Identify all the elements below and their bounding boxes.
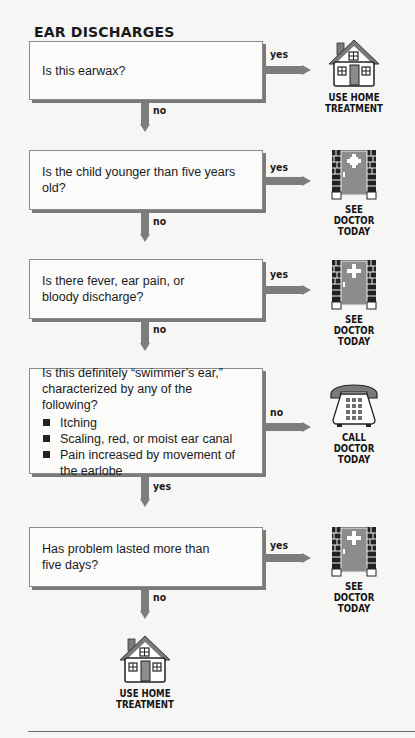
house-icon [117,634,173,684]
doctor-door-icon [330,148,378,200]
yes-arrow [141,477,149,499]
question-text: Has problem lasted more than five days? [42,541,250,573]
no-label: no [270,406,283,419]
outcome-line: TODAY [321,603,387,614]
no-label: no [153,591,166,604]
question-text: Is this definitely “swimmer’s ear,” char… [42,365,250,413]
question-box-earwax: Is this earwax? [29,41,263,100]
question-text: Is the child younger than five years old… [42,164,250,196]
question-box-fever: Is there fever, ear pain, or bloody disc… [29,259,263,319]
outcome-line: TODAY [321,226,387,237]
yes-label: yes [153,480,171,493]
no-arrow [264,423,302,431]
yes-arrow [264,286,302,294]
outcome-line: TREATMENT [321,103,387,114]
symptom-item: Pain increased by movement of the earlob… [42,447,250,479]
bottom-divider [28,731,415,732]
yes-arrow [264,177,302,185]
no-arrow [141,212,149,234]
symptom-item: Scaling, red, or moist ear canal [42,431,250,447]
question-box-swimmers-ear: Is this definitely “swimmer’s ear,” char… [29,368,263,474]
outcome-see-doctor-today: SEE DOCTOR TODAY [314,525,394,614]
chart-title: EAR DISCHARGES [34,24,175,40]
yes-label: yes [270,48,288,61]
no-arrow [141,321,149,343]
yes-label: yes [270,539,288,552]
yes-label: yes [270,268,288,281]
outcome-line: TODAY [321,336,387,347]
yes-label: yes [270,161,288,174]
question-text: Is there fever, ear pain, or bloody disc… [42,273,250,305]
no-arrow [141,589,149,611]
no-label: no [153,104,166,117]
telephone-icon [327,380,381,428]
doctor-door-icon [330,525,378,577]
doctor-door-icon [330,258,378,310]
question-box-age: Is the child younger than five years old… [29,150,263,210]
no-label: no [153,323,166,336]
no-label: no [153,215,166,228]
final-outcome-use-home-treatment: USE HOME TREATMENT [105,634,185,710]
yes-arrow [264,66,302,74]
no-arrow [141,102,149,124]
yes-arrow [264,554,302,562]
outcome-see-doctor-today: SEE DOCTOR TODAY [314,258,394,347]
outcome-use-home-treatment: USE HOME TREATMENT [314,38,394,114]
house-icon [326,38,382,88]
outcome-line: TREATMENT [112,699,178,710]
question-text: Is this earwax? [42,63,250,79]
outcome-see-doctor-today: SEE DOCTOR TODAY [314,148,394,237]
question-box-duration: Has problem lasted more than five days? [29,527,263,587]
symptom-list: Itching Scaling, red, or moist ear canal… [42,415,250,479]
outcome-line: TODAY [321,454,387,465]
outcome-call-doctor-today: CALL DOCTOR TODAY [314,380,394,465]
symptom-item: Itching [42,415,250,431]
